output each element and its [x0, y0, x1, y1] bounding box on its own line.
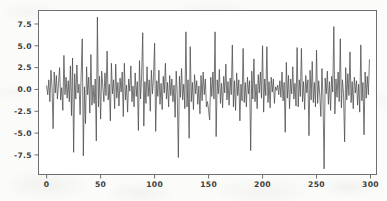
- y-tick-label: 7.5: [17, 20, 32, 29]
- x-tick-label: 250: [308, 180, 325, 189]
- y-axis-ticks: 7.55.02.50.0-2.5-5.0-7.5: [14, 20, 38, 160]
- y-tick-label: -7.5: [14, 151, 32, 160]
- y-tick-label: 2.5: [17, 63, 32, 72]
- x-tick-label: 0: [44, 180, 50, 189]
- x-axis-ticks: 050100150200250300: [44, 175, 379, 189]
- y-tick-label: -5.0: [14, 129, 32, 138]
- x-tick-label: 200: [254, 180, 271, 189]
- x-tick-label: 150: [200, 180, 217, 189]
- x-tick-label: 100: [146, 180, 163, 189]
- x-tick-label: 300: [362, 180, 379, 189]
- y-tick-label: -2.5: [14, 107, 32, 116]
- line-chart-canvas: 7.55.02.50.0-2.5-5.0-7.5 050100150200250…: [0, 0, 387, 201]
- y-tick-label: 0.0: [17, 85, 32, 94]
- y-tick-label: 5.0: [17, 42, 32, 51]
- matplotlib-figure: 7.55.02.50.0-2.5-5.0-7.5 050100150200250…: [0, 0, 387, 201]
- x-tick-label: 50: [95, 180, 106, 189]
